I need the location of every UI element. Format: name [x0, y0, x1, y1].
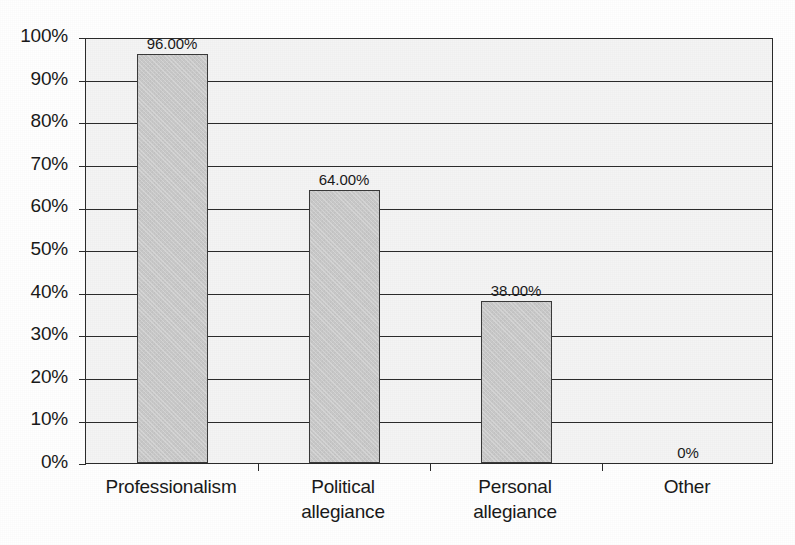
y-axis-tick-label: 90%	[31, 68, 68, 90]
y-axis-tick-mark	[79, 379, 86, 380]
y-axis-tick-label: 80%	[31, 110, 68, 132]
x-axis-tick-mark	[258, 463, 259, 471]
y-axis-tick-label: 20%	[31, 366, 68, 388]
bar[interactable]	[137, 54, 208, 463]
y-axis-tick-mark	[79, 422, 86, 423]
y-axis-tick-mark	[79, 336, 86, 337]
y-axis-tick-mark	[79, 209, 86, 210]
y-axis-tick-label: 50%	[31, 238, 68, 260]
y-axis-tick-mark	[79, 38, 86, 39]
x-axis-tick-mark	[602, 463, 603, 471]
y-axis-tick-label: 10%	[31, 408, 68, 430]
y-axis-tick-label: 100%	[20, 25, 68, 47]
x-axis-category-label: Other	[577, 474, 795, 499]
bar-value-label: 38.00%	[456, 282, 576, 299]
bar[interactable]	[309, 190, 380, 463]
y-axis-tick-label: 30%	[31, 323, 68, 345]
bar-texture	[138, 55, 207, 462]
y-axis-tick-mark	[79, 294, 86, 295]
bar-texture	[482, 302, 551, 462]
y-axis-tick-label: 70%	[31, 153, 68, 175]
y-axis-tick-mark	[79, 166, 86, 167]
y-axis-tick-mark	[79, 123, 86, 124]
x-axis-tick-mark	[430, 463, 431, 471]
y-axis-tick-mark	[79, 251, 86, 252]
y-axis-tick-label: 60%	[31, 195, 68, 217]
y-axis-tick-mark	[79, 464, 86, 465]
bar-value-label: 0%	[628, 444, 748, 461]
bar-texture	[310, 191, 379, 462]
plot-area: 96.00%64.00%38.00%0%	[85, 38, 773, 464]
bar[interactable]	[481, 301, 552, 463]
bar-value-label: 96.00%	[112, 35, 232, 52]
bar-value-label: 64.00%	[284, 171, 404, 188]
y-axis-tick-label: 0%	[41, 451, 68, 473]
y-axis-tick-label: 40%	[31, 281, 68, 303]
bar-chart: 0%10%20%30%40%50%60%70%80%90%100% Profes…	[0, 0, 795, 545]
y-axis-tick-mark	[79, 81, 86, 82]
